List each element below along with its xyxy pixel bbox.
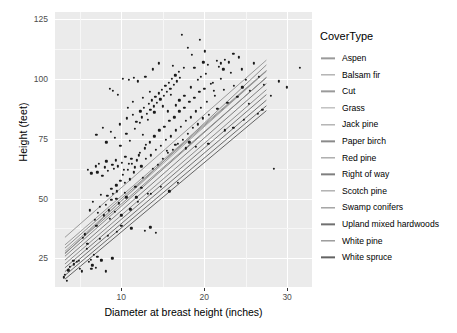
- legend-label: Balsam fir: [342, 71, 380, 80]
- regression-line: [65, 95, 266, 268]
- x-tick-mark: [121, 288, 122, 291]
- legend: CoverType AspenBalsam firCutGrassJack pi…: [320, 30, 457, 266]
- legend-key-line-icon: [320, 86, 336, 97]
- scatter-chart: Height (feet) 255075100125 102030 Diamet…: [0, 0, 457, 333]
- legend-label: Swamp conifers: [342, 203, 403, 212]
- legend-label: White pine: [342, 237, 383, 246]
- legend-label: Cut: [342, 87, 355, 96]
- legend-item[interactable]: Paper birch: [320, 133, 457, 150]
- x-tick-mark: [204, 288, 205, 291]
- y-tick-label: 25: [20, 253, 48, 263]
- legend-item[interactable]: White spruce: [320, 249, 457, 266]
- x-tick-label: 20: [199, 292, 208, 302]
- legend-label: Upland mixed hardwoods: [342, 220, 439, 229]
- legend-key-line-icon: [320, 136, 336, 147]
- legend-key-line-icon: [320, 252, 336, 263]
- x-axis-title: Diameter at breast height (inches): [55, 306, 312, 318]
- legend-item[interactable]: Cut: [320, 83, 457, 100]
- legend-item[interactable]: Swamp conifers: [320, 199, 457, 216]
- legend-key-line-icon: [320, 69, 336, 80]
- legend-key-line-icon: [320, 219, 336, 230]
- legend-key-line-icon: [320, 119, 336, 130]
- legend-item[interactable]: Aspen: [320, 50, 457, 67]
- legend-label: Aspen: [342, 54, 366, 63]
- legend-item[interactable]: Balsam fir: [320, 67, 457, 84]
- regression-lines: [55, 12, 312, 287]
- regression-line: [65, 90, 266, 264]
- legend-label: Right of way: [342, 170, 389, 179]
- legend-key-line-icon: [320, 53, 336, 64]
- x-tick-label: 10: [117, 292, 126, 302]
- x-tick-label: 30: [282, 292, 291, 302]
- legend-items: AspenBalsam firCutGrassJack pinePaper bi…: [320, 50, 457, 266]
- legend-label: Red pine: [342, 154, 376, 163]
- y-axis-ticks: 255075100125: [16, 0, 48, 333]
- legend-label: Paper birch: [342, 137, 386, 146]
- legend-item[interactable]: Scotch pine: [320, 183, 457, 200]
- legend-key-line-icon: [320, 186, 336, 197]
- y-tick-label: 100: [20, 74, 48, 84]
- legend-label: Jack pine: [342, 120, 378, 129]
- legend-item[interactable]: Jack pine: [320, 116, 457, 133]
- legend-key-line-icon: [320, 169, 336, 180]
- legend-key-line-icon: [320, 235, 336, 246]
- y-tick-label: 50: [20, 194, 48, 204]
- legend-item[interactable]: Right of way: [320, 166, 457, 183]
- x-tick-mark: [287, 288, 288, 291]
- legend-label: White spruce: [342, 253, 392, 262]
- legend-item[interactable]: Grass: [320, 100, 457, 117]
- legend-key-line-icon: [320, 152, 336, 163]
- legend-title: CoverType: [320, 30, 457, 42]
- legend-key-line-icon: [320, 202, 336, 213]
- legend-item[interactable]: Upland mixed hardwoods: [320, 216, 457, 233]
- regression-line: [65, 100, 266, 271]
- plot-panel: [55, 12, 312, 287]
- legend-label: Grass: [342, 104, 365, 113]
- legend-item[interactable]: Red pine: [320, 150, 457, 167]
- y-tick-label: 75: [20, 134, 48, 144]
- legend-key-line-icon: [320, 103, 336, 114]
- regression-line: [65, 106, 266, 276]
- legend-item[interactable]: White pine: [320, 233, 457, 250]
- legend-label: Scotch pine: [342, 187, 387, 196]
- y-tick-label: 125: [20, 14, 48, 24]
